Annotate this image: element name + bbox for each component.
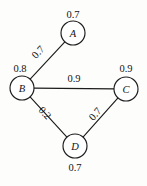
edge-weight-d-c: 0.7	[87, 105, 104, 122]
graph-diagram: A B C D 0.7 0.8 0.9 0.7 0.7 0.9 0.2 0.7	[0, 0, 147, 186]
edge-weight-b-a: 0.7	[30, 43, 47, 60]
node-weight-c: 0.9	[119, 63, 132, 74]
graph-canvas: A B C D 0.7 0.8 0.9 0.7 0.7 0.9 0.2 0.7	[0, 0, 147, 186]
edge-b-c	[34, 88, 114, 89]
node-label-d: D	[70, 141, 79, 152]
node-weight-a: 0.7	[66, 9, 79, 20]
node-label-c: C	[122, 84, 130, 95]
node-label-b: B	[19, 83, 26, 94]
edge-weights-group: 0.7 0.9 0.2 0.7	[30, 43, 104, 122]
node-weight-b: 0.8	[13, 63, 26, 74]
edges-group	[30, 42, 118, 137]
nodes-group	[10, 21, 138, 158]
edge-weight-b-c: 0.9	[67, 73, 80, 84]
node-weight-d: 0.7	[68, 162, 81, 173]
node-label-a: A	[69, 28, 77, 39]
